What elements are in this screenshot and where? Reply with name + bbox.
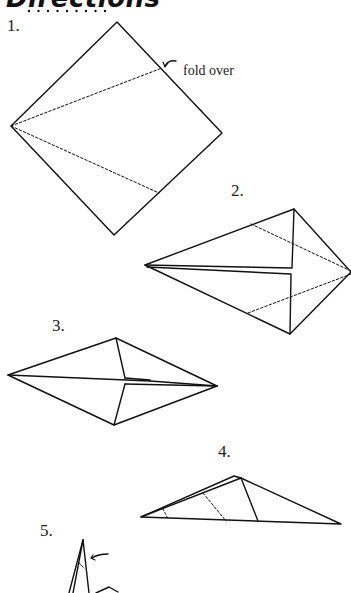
origami-directions-page: Directions [0,0,351,593]
step-2-figure [145,209,351,334]
step-3-label: 3. [52,316,65,336]
step-1-label: 1. [7,16,20,36]
origami-diagram [0,0,351,593]
heading-dotted-underline [28,10,106,12]
fold-arrow-icon [92,554,108,558]
step-2-label: 2. [231,181,244,201]
step-5-label: 5. [40,521,53,541]
fold-over-annotation: fold over [183,63,234,79]
step-5-figure [69,540,118,593]
step-4-label: 4. [218,442,231,462]
step-3-figure [8,338,217,425]
step-1-figure [11,22,222,235]
step-4-figure [141,476,341,524]
